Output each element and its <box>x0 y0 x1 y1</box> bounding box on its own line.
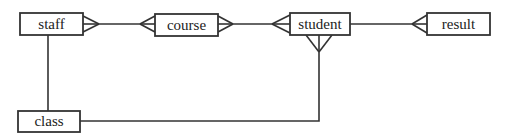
entity-label-staff: staff <box>38 16 64 32</box>
entity-label-class: class <box>34 113 63 129</box>
crows-foot-icon <box>140 16 155 32</box>
crows-foot-icon <box>272 15 290 33</box>
er-diagram: staff course student result class <box>0 0 508 140</box>
entity-label-result: result <box>442 16 476 32</box>
crows-foot-icon <box>306 35 332 52</box>
entity-label-student: student <box>298 16 342 32</box>
entity-label-course: course <box>167 17 206 33</box>
crows-foot-icon <box>218 16 233 32</box>
relationship-class-student <box>80 52 319 121</box>
crows-foot-icon <box>412 15 427 33</box>
crows-foot-icon <box>83 16 99 32</box>
